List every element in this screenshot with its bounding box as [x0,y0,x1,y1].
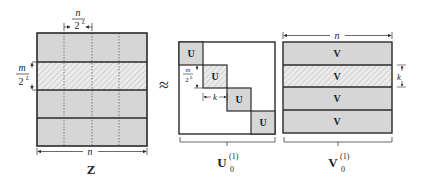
svg-text:n: n [76,7,81,18]
v-brace [284,137,392,146]
svg-text:0: 0 [341,165,345,174]
svg-text:U: U [217,155,227,170]
svg-text:V: V [333,93,341,104]
svg-text:V: V [333,116,341,127]
svg-text:U: U [187,48,194,59]
svg-text:V: V [333,48,341,59]
v-matrix: V V V V [283,42,392,133]
svg-text:2: 2 [75,20,80,31]
svg-text:U: U [235,94,242,105]
svg-text:V: V [328,155,338,170]
v-right-label: k [397,65,406,87]
z-matrix [37,33,147,146]
svg-text:0: 0 [230,165,234,174]
z-left-label: m 2 L [16,62,36,90]
svg-text:k: k [397,72,402,82]
svg-text:V: V [333,71,341,82]
approx-symbol: ≈ [159,75,169,95]
svg-text:n: n [335,30,340,41]
u-brace [180,137,275,146]
svg-text:2: 2 [185,76,189,84]
svg-text:U: U [211,71,218,82]
svg-text:U: U [259,117,266,128]
v-name: V 0 (1) [328,152,349,174]
svg-text:L: L [25,75,30,81]
svg-text:(1): (1) [340,152,350,161]
svg-text:2: 2 [19,76,24,87]
v-top-label: n [283,30,392,41]
svg-text:L: L [81,19,86,25]
svg-text:n: n [88,146,93,157]
svg-text:m: m [18,62,25,73]
svg-text:(1): (1) [229,152,239,161]
svg-text:m: m [185,66,190,74]
svg-text:L: L [189,75,193,80]
u-matrix: U U U U [179,42,275,134]
u-name: U 0 (1) [217,152,238,174]
factorization-diagram: n 2 L m 2 L n Z ≈ U U U U [0,0,424,183]
z-top-label: n 2 L [64,7,92,31]
z-name: Z [87,162,96,177]
z-bottom-label: n [37,146,147,157]
